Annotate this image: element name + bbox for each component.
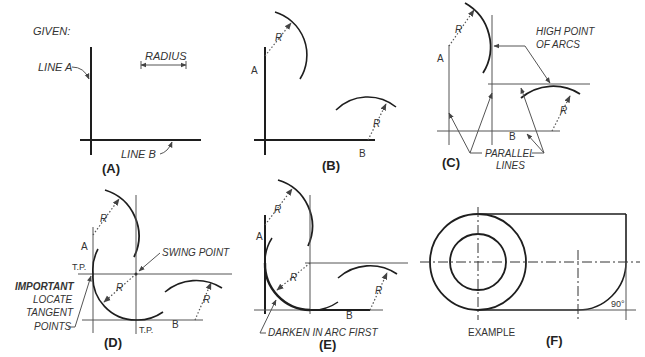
swing-point-marker xyxy=(135,273,138,276)
arc-from-line-a xyxy=(465,3,491,73)
r2-label: R xyxy=(375,285,382,296)
label-b: B xyxy=(359,148,366,159)
line-b-leader xyxy=(160,142,172,154)
note-line1: LOCATE xyxy=(33,294,73,305)
high-point-leader-b xyxy=(525,46,550,83)
arc-tangent-construction-diagram: GIVEN: LINE A LINE B RADIUS (A) A B R R … xyxy=(0,0,645,357)
r1-label: R xyxy=(455,24,462,35)
panel-d: A B R R R SWING POINT T.P. T.P. IMPORTAN… xyxy=(15,190,232,350)
panel-e: A B R R R DARKEN IN ARC FIRST (E) xyxy=(254,180,408,352)
panel-c: A B R R HIGH POINT OF ARCS PARALLEL LINE… xyxy=(437,3,595,171)
line-a-label: LINE A xyxy=(38,61,72,73)
high-point-line2: OF ARCS xyxy=(536,39,580,50)
r1-label: R xyxy=(100,213,107,224)
panel-b: A B R R (B) xyxy=(251,12,396,173)
parallel-line2: LINES xyxy=(496,160,525,171)
label-a: A xyxy=(81,241,88,252)
caption-e: (E) xyxy=(319,337,336,352)
r2-label: R xyxy=(373,118,380,129)
line-b-label: LINE B xyxy=(121,148,156,160)
note-line2: TANGENT xyxy=(26,307,74,318)
important-label: IMPORTANT xyxy=(15,281,74,292)
swing-point-label: SWING POINT xyxy=(162,247,230,258)
tp-left-label: T.P. xyxy=(72,262,86,272)
caption-b: (B) xyxy=(322,158,340,173)
radius-label: RADIUS xyxy=(145,50,187,62)
arc-from-line-b xyxy=(336,97,396,110)
caption-a: (A) xyxy=(102,161,120,176)
swing-point-leader xyxy=(139,253,160,271)
r2-label: R xyxy=(203,294,210,305)
arc-from-line-b xyxy=(165,280,222,292)
caption-d: (D) xyxy=(104,335,122,350)
parallel-line1: PARALLEL xyxy=(485,148,535,159)
r3-label: R xyxy=(290,272,297,283)
given-label: GIVEN: xyxy=(33,25,70,37)
caption-c: (C) xyxy=(442,155,460,170)
arc-from-line-a xyxy=(278,180,312,246)
high-point-line1: HIGH POINT xyxy=(536,26,595,37)
caption-f: (F) xyxy=(546,333,563,348)
darkened-tangent-arc xyxy=(265,263,310,310)
r1-label: R xyxy=(275,32,282,43)
arc-from-line-b xyxy=(338,266,397,278)
label-a: A xyxy=(437,53,444,64)
panel-f: 90° EXAMPLE (F) xyxy=(420,207,640,348)
label-a: A xyxy=(251,65,258,76)
label-a: A xyxy=(256,231,263,242)
arc-from-line-a xyxy=(105,190,139,257)
r1-label: R xyxy=(274,204,281,215)
label-b: B xyxy=(346,310,353,321)
r2-label: R xyxy=(560,105,567,116)
arc-from-line-a xyxy=(275,12,307,79)
line-a-leader xyxy=(72,67,89,79)
angle-label: 90° xyxy=(611,299,625,309)
label-b: B xyxy=(172,319,179,330)
note-line3: POINTS xyxy=(34,321,72,332)
label-b: B xyxy=(509,131,516,142)
arc-from-line-b xyxy=(521,86,580,98)
r3-label: R xyxy=(116,282,123,293)
panel-a: GIVEN: LINE A LINE B RADIUS (A) xyxy=(33,25,201,176)
tp-bottom-label: T.P. xyxy=(139,325,153,335)
example-label: EXAMPLE xyxy=(468,327,516,338)
